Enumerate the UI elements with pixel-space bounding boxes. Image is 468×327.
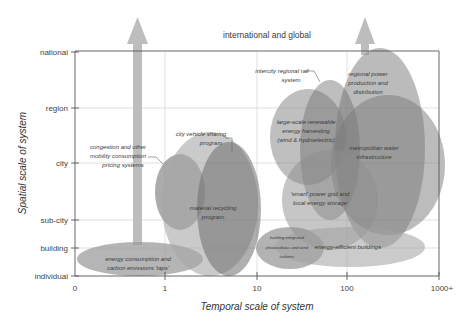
label-regional-1: regional power	[348, 71, 388, 77]
label-bipv-3: turbines	[280, 254, 296, 259]
x-tick-100: 100	[340, 284, 354, 293]
y-tick-subcity: sub-city	[40, 216, 68, 225]
x-tick-0: 0	[73, 284, 78, 293]
spatial-temporal-diagram: international and global national region…	[0, 0, 468, 327]
y-tick-individual: individual	[35, 272, 69, 281]
y-tick-region: region	[46, 104, 68, 113]
y-tick-building: building	[40, 244, 68, 253]
label-vehicle-2: program	[199, 140, 222, 146]
label-congestion-1: congestion and other	[90, 144, 147, 150]
label-energy-taps-1: energy consumption and	[105, 256, 171, 262]
label-rail-1: intercity regional rail	[255, 68, 309, 74]
label-rail-2: system	[281, 77, 300, 83]
label-water-2: infrastructure	[356, 154, 392, 160]
label-recycling-1: material recycling	[190, 205, 237, 211]
label-congestion-2: mobility consumption	[90, 153, 147, 159]
label-smart-2: local energy storage	[293, 200, 348, 206]
label-regional-3: distribution	[353, 89, 383, 95]
x-tick-1000: 1000+	[431, 284, 454, 293]
label-smart-1: 'smart' power grid and	[291, 191, 350, 197]
label-bipv-2: photovoltaics and wind	[265, 245, 309, 250]
right-up-arrow	[355, 17, 375, 55]
x-tick-labels: 0 1 10 100 1000+	[73, 284, 454, 293]
label-renewable-1: large-scale renewable	[277, 119, 336, 125]
y-tick-labels: national region city sub-city building i…	[35, 48, 69, 281]
label-bipv-1: building integrated	[270, 235, 305, 240]
label-congestion-3: pricing systems	[101, 162, 143, 168]
label-regional-2: production and	[347, 80, 388, 86]
label-renewable-2: energy harvesting	[282, 128, 330, 134]
label-vehicle-1: city vehicle sharing	[176, 131, 227, 137]
label-water-1: metropolitan water	[349, 145, 399, 151]
label-renewable-3: (wind & hydroelectric)	[277, 137, 335, 143]
x-tick-10: 10	[253, 284, 262, 293]
y-axis-title: Spatial scale of system	[17, 112, 28, 214]
top-annotation: international and global	[223, 30, 311, 40]
label-recycling-2: program	[201, 214, 224, 220]
x-axis-title: Temporal scale of system	[200, 301, 313, 312]
y-tick-national: national	[40, 48, 68, 57]
label-efficient-buildings: energy-efficient buildings	[315, 244, 381, 250]
label-energy-taps-2: carbon emissions 'taps'	[107, 265, 170, 271]
y-tick-city: city	[56, 159, 68, 168]
x-tick-1: 1	[163, 284, 168, 293]
